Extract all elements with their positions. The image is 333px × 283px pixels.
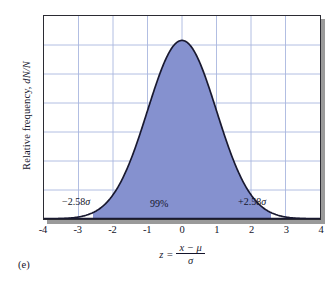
annotation-lower-bound: −2.58σ (62, 196, 90, 207)
x-axis-tick-0: 0 (179, 224, 184, 235)
annotation-upper-bound-value: +2.58 (238, 196, 261, 207)
annotation-lower-bound-value: −2.58 (62, 196, 85, 207)
x-axis-tick-4: 4 (318, 224, 323, 235)
x-axis-label-fraction: x − μ σ (176, 242, 204, 266)
distribution-chart (44, 16, 320, 219)
x-axis-tick-2: 2 (249, 224, 254, 235)
x-axis-label-numerator: x − μ (176, 242, 204, 254)
y-axis-label-prefix: Relative frequency, (21, 84, 32, 170)
shaded-confidence-region (93, 40, 271, 219)
x-axis-tick--3: -3 (73, 224, 82, 235)
figure-caption: (e) (18, 259, 30, 270)
figure-panel: Relative frequency, dN/N −2.58σ 99% +2.5… (0, 0, 333, 283)
x-axis-label: z = x − μ σ (43, 242, 321, 266)
sigma-symbol-left: σ (85, 196, 90, 207)
y-axis-label-symbol: dN/N (21, 61, 32, 84)
y-axis-label: Relative frequency, dN/N (21, 36, 32, 196)
x-axis-tick--1: -1 (143, 224, 152, 235)
x-axis-label-equals: = (166, 249, 173, 260)
x-axis-tick--2: -2 (108, 224, 117, 235)
x-axis-tick-3: 3 (284, 224, 289, 235)
sigma-symbol-right: σ (261, 196, 266, 207)
annotation-confidence: 99% (150, 198, 168, 209)
annotation-upper-bound: +2.58σ (238, 196, 266, 207)
x-axis-tick-labels: -4-3-2-101234 (43, 224, 321, 240)
x-axis-tick-1: 1 (214, 224, 219, 235)
x-axis-label-denominator: σ (188, 254, 193, 266)
x-axis-tick--4: -4 (39, 224, 48, 235)
plot-area (43, 15, 321, 220)
x-axis-label-lhs: z (159, 249, 163, 260)
